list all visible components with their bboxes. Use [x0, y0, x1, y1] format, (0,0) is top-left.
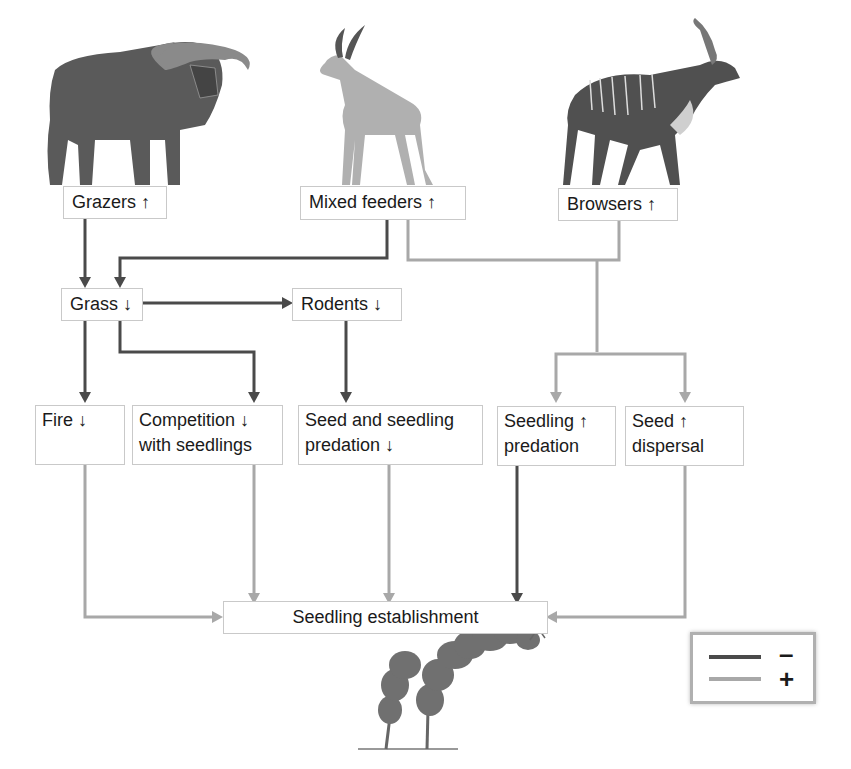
node-label: Grazers ↑	[72, 192, 150, 212]
node-label-line1: Competition ↓	[139, 408, 276, 433]
buffalo-illustration	[48, 42, 250, 185]
node-label-line1: Seed and seedling	[305, 408, 476, 433]
legend-negative-line	[709, 655, 761, 659]
node-label-line2: predation ↓	[305, 433, 476, 458]
node-label-line2: with seedlings	[139, 433, 276, 458]
node-grass: Grass ↓	[61, 288, 143, 321]
node-seedling-establishment: Seedling establishment	[223, 601, 548, 634]
node-label-line2: dispersal	[632, 434, 737, 459]
node-seed-predation: Seed and seedling predation ↓	[298, 405, 483, 465]
acacia-seedling-illustration	[358, 620, 545, 749]
node-mixed-feeders: Mixed feeders ↑	[300, 186, 466, 220]
node-fire: Fire ↓	[35, 405, 125, 465]
node-competition: Competition ↓ with seedlings	[132, 405, 283, 465]
node-label: Seedling establishment	[292, 607, 478, 627]
impala-illustration	[320, 25, 433, 185]
legend-positive-symbol: +	[779, 666, 794, 692]
node-seedling-predation: Seedling ↑ predation	[497, 406, 616, 466]
node-label: Browsers ↑	[567, 194, 656, 214]
node-label: Rodents ↓	[301, 294, 382, 314]
node-label-line1: Seed ↑	[632, 409, 737, 434]
node-label: Mixed feeders ↑	[309, 192, 436, 212]
legend: – +	[690, 632, 816, 704]
node-label-line2: predation	[504, 434, 609, 459]
node-grazers: Grazers ↑	[63, 186, 167, 219]
kudu-illustration	[563, 18, 740, 185]
node-rodents: Rodents ↓	[292, 288, 402, 321]
node-browsers: Browsers ↑	[558, 188, 678, 221]
legend-positive-line	[709, 677, 761, 681]
node-label-line1: Fire ↓	[42, 408, 118, 433]
node-label-line1: Seedling ↑	[504, 409, 609, 434]
node-seed-dispersal: Seed ↑ dispersal	[625, 406, 744, 466]
node-label: Grass ↓	[70, 294, 132, 314]
